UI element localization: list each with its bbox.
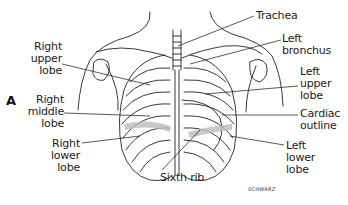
label-right-lower-lobe: Right lower lobe [40, 138, 80, 174]
label-cardiac-outline: Cardiac outline [300, 108, 340, 132]
leader-sixth-rib [162, 130, 200, 170]
right-scapula [106, 64, 118, 110]
right-clavicle [96, 48, 172, 58]
left-shoulder-contour [210, 12, 283, 106]
label-trachea: Trachea [256, 10, 298, 22]
label-right-upper-lobe: Right upper lobe [22, 41, 62, 77]
leader-left-lower-lobe [230, 136, 284, 145]
leader-left-bronchus [190, 40, 281, 64]
label-left-bronchus: Left bronchus [282, 33, 331, 57]
leader-right-lower-lobe [82, 136, 140, 143]
label-right-middle-lobe: Right middle lobe [24, 94, 64, 130]
label-sixth-rib: Sixth rib [160, 172, 204, 184]
panel-label: A [6, 93, 16, 108]
label-left-lower-lobe: Left lower lobe [286, 140, 315, 176]
right-shoulder-contour [78, 12, 150, 110]
right-humerus [93, 59, 109, 80]
artist-signature: SCHWARZ [248, 186, 276, 192]
leader-right-upper-lobe [62, 64, 150, 85]
left-scapula [246, 66, 256, 112]
label-left-upper-lobe: Left upper lobe [300, 66, 331, 102]
spine [175, 70, 179, 175]
right-fissure-shading [124, 121, 170, 132]
leader-right-middle-lobe [64, 113, 150, 116]
leader-trachea [178, 16, 254, 46]
left-humerus [250, 59, 267, 82]
